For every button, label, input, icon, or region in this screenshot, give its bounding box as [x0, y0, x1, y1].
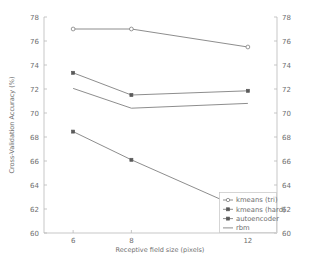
legend[interactable]: kmeans (tri)kmeans (hard)autoencoderrbm	[220, 193, 287, 233]
y-tick-label-right: 64	[282, 182, 291, 190]
legend-label: kmeans (tri)	[236, 196, 278, 204]
y-tick-label-left: 76	[30, 38, 39, 46]
data-point	[246, 89, 249, 92]
line-chart-canvas: 6060626264646666686870707272747476767878…	[0, 0, 319, 266]
data-point	[130, 158, 133, 161]
y-tick-label-right: 76	[282, 38, 291, 46]
y-tick-label-right: 72	[282, 86, 291, 94]
legend-label: rbm	[236, 224, 250, 232]
y-tick-label-right: 60	[282, 230, 291, 238]
data-point	[72, 130, 75, 133]
data-point	[130, 94, 133, 97]
x-tick-label: 12	[243, 237, 252, 245]
x-tick-label: 8	[129, 237, 133, 245]
y-tick-label-left: 64	[30, 182, 39, 190]
y-tick-label-left: 72	[30, 86, 39, 94]
y-tick-label-right: 70	[282, 110, 291, 118]
y-tick-label-right: 68	[282, 134, 291, 142]
series-layer	[71, 27, 250, 213]
y-tick-label-right: 66	[282, 158, 291, 166]
y-tick-label-left: 74	[30, 62, 39, 70]
chart-figure: 6060626264646666686870707272747476767878…	[0, 0, 319, 266]
y-tick-label-left: 70	[30, 110, 39, 118]
legend-marker	[227, 208, 230, 211]
y-tick-label-left: 78	[30, 14, 39, 22]
series-kmeans-tri-	[71, 27, 250, 49]
y-tick-label-left: 66	[30, 158, 39, 166]
data-point	[129, 27, 133, 31]
y-tick-label-right: 74	[282, 62, 291, 70]
x-tick-label: 6	[71, 237, 76, 245]
data-point	[72, 71, 75, 74]
legend-label: kmeans (hard)	[236, 206, 286, 214]
y-tick-label-left: 62	[30, 206, 39, 214]
y-tick-label-right: 78	[282, 14, 291, 22]
legend-marker	[226, 198, 229, 201]
data-point	[71, 27, 75, 31]
series-kmeans-hard-	[72, 71, 250, 96]
legend-marker	[227, 217, 230, 220]
y-tick-label-left: 60	[30, 230, 39, 238]
y-tick-label-left: 68	[30, 134, 39, 142]
y-axis-title: Cross-Validation Accuracy (%)	[8, 77, 16, 174]
x-axis-title: Receptive field size (pixels)	[116, 246, 205, 254]
data-point	[246, 45, 250, 49]
legend-label: autoencoder	[236, 215, 279, 223]
